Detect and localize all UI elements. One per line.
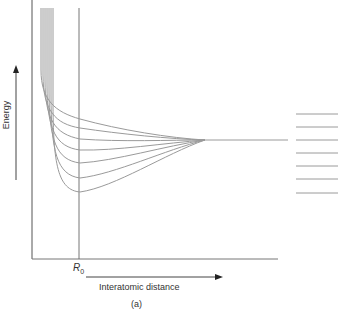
r0-subscript: 0 [80,268,84,275]
potential-energy-diagram [0,0,338,314]
y-axis-label: Energy [1,101,11,130]
x-axis-label: Interatomic distance [99,282,180,292]
distance-arrow-icon [86,274,223,280]
figure-caption: (a) [131,299,142,309]
energy-levels [296,114,338,193]
potential-curves [41,8,205,192]
energy-arrow-icon [13,65,19,180]
r0-label: R0 [73,262,84,275]
